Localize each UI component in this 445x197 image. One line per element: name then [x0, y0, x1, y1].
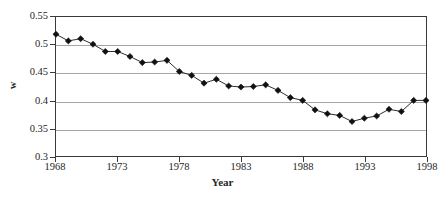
data-point-marker: [201, 80, 207, 86]
data-point-marker: [189, 72, 195, 78]
data-point-marker: [324, 111, 330, 117]
series-line: [56, 34, 426, 121]
x-axis-tick-label: 1988: [283, 161, 323, 173]
data-point-marker: [238, 84, 244, 90]
data-point-marker: [152, 59, 158, 65]
y-axis-tick-label: 0.55: [0, 10, 48, 21]
data-point-marker: [275, 87, 281, 93]
data-point-marker: [287, 95, 293, 101]
series-markers: [53, 31, 429, 124]
data-point-marker: [213, 76, 219, 82]
y-axis-tick-label: 0.45: [0, 66, 48, 77]
data-point-marker: [78, 36, 84, 42]
data-point-marker: [423, 97, 429, 103]
data-point-marker: [127, 53, 133, 59]
chart-figure: w 0.30.350.40.450.50.55 1968197319781983…: [0, 0, 445, 197]
data-point-marker: [139, 60, 145, 66]
data-point-marker: [115, 48, 121, 54]
x-axis-tick-label: 1973: [97, 161, 137, 173]
data-point-marker: [386, 106, 392, 112]
data-point-marker: [90, 41, 96, 47]
x-axis-tick-label: 1993: [345, 161, 385, 173]
data-point-marker: [250, 83, 256, 89]
data-point-marker: [361, 115, 367, 121]
data-point-marker: [349, 118, 355, 124]
y-axis-tick-label: 0.5: [0, 38, 48, 49]
x-axis-tick-label: 1968: [35, 161, 75, 173]
data-point-marker: [337, 112, 343, 118]
data-point-marker: [65, 38, 71, 44]
x-axis-tick-label: 1978: [159, 161, 199, 173]
x-axis-tick-label: 1998: [407, 161, 445, 173]
x-axis-title: Year: [0, 176, 445, 188]
series-w: [56, 17, 426, 156]
data-point-marker: [374, 113, 380, 119]
data-point-marker: [226, 83, 232, 89]
y-axis-tick-label: 0.35: [0, 123, 48, 134]
data-point-marker: [53, 31, 59, 37]
data-point-marker: [263, 82, 269, 88]
y-axis-tick-label: 0.4: [0, 95, 48, 106]
x-axis-tick-label: 1983: [221, 161, 261, 173]
plot-area: [55, 16, 427, 157]
data-point-marker: [102, 48, 108, 54]
